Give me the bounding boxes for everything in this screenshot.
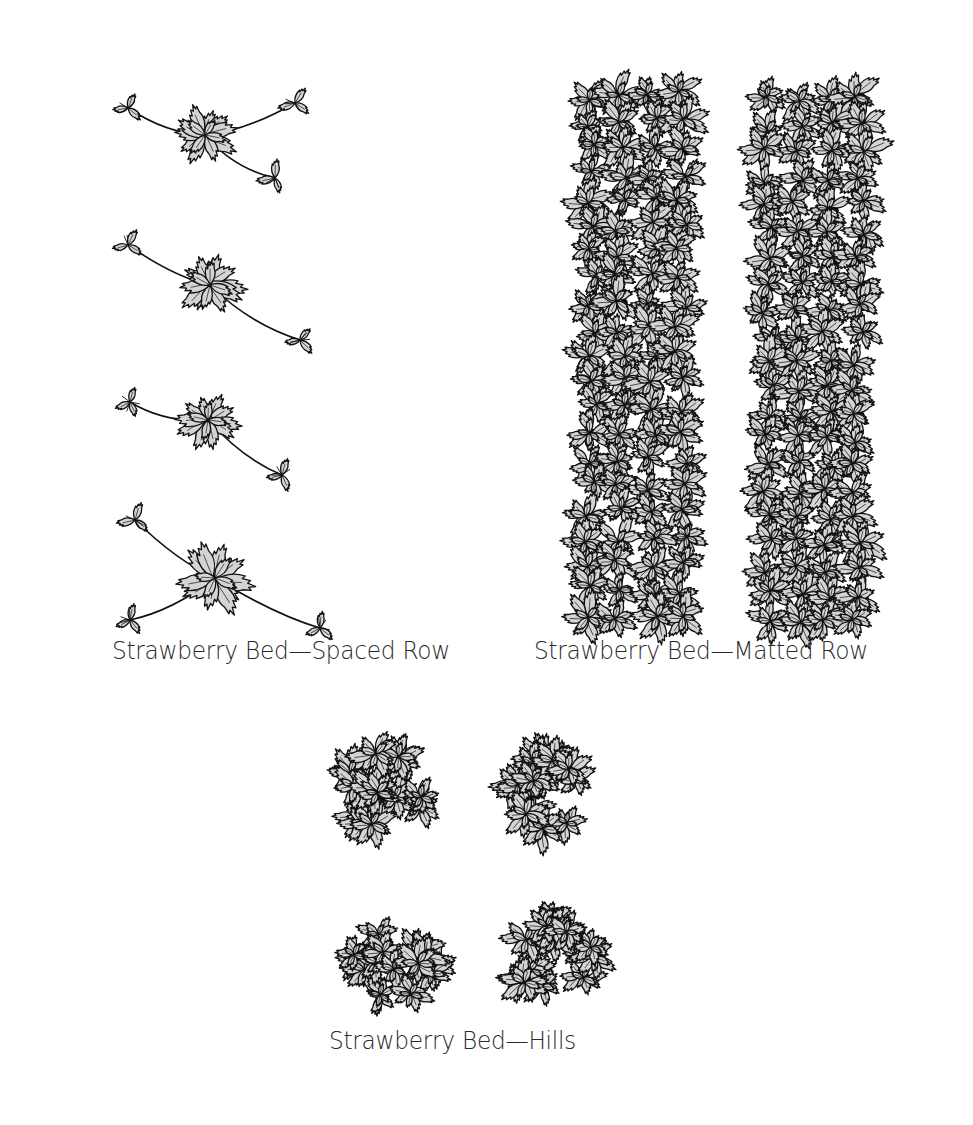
strawberry-illustration bbox=[0, 0, 973, 1125]
strawberry-plant bbox=[115, 501, 335, 641]
matted-row-bed bbox=[737, 72, 896, 650]
matted-row-beds bbox=[560, 66, 896, 650]
strawberry-plant bbox=[114, 386, 292, 492]
caption-matted-row: Strawberry Bed—Matted Row bbox=[534, 636, 868, 665]
strawberry-plant bbox=[112, 86, 311, 194]
caption-hills: Strawberry Bed—Hills bbox=[329, 1026, 576, 1055]
strawberry-bed-figure: Strawberry Bed—Spaced Row Strawberry Bed… bbox=[0, 0, 973, 1125]
hill-clump bbox=[488, 731, 598, 856]
caption-spaced-row: Strawberry Bed—Spaced Row bbox=[112, 636, 450, 665]
spaced-row-plants bbox=[112, 86, 335, 641]
hill-clump bbox=[495, 900, 618, 1007]
strawberry-plant bbox=[112, 228, 315, 355]
matted-row-bed bbox=[560, 66, 711, 646]
hill-clump bbox=[326, 729, 441, 850]
hill-clumps bbox=[326, 729, 618, 1016]
hill-clump bbox=[335, 915, 458, 1016]
